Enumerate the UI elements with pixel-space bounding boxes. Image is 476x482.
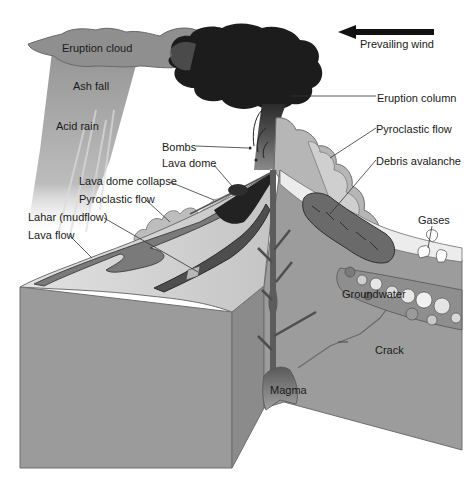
label-debris-avalanche: Debris avalanche (376, 155, 461, 167)
label-lahar: Lahar (mudflow) (28, 211, 107, 223)
label-acid-rain: Acid rain (56, 120, 99, 132)
eruption-column-head (169, 24, 323, 110)
volcano-diagram: Eruption cloud Ash fall Acid rain Prevai… (0, 0, 476, 482)
label-eruption-column: Eruption column (377, 92, 457, 104)
label-lava-dome-collapse: Lava dome collapse (79, 175, 177, 187)
label-lava-flow: Lava flow (28, 229, 74, 241)
label-gases: Gases (418, 214, 450, 226)
block-left-side (232, 286, 264, 468)
label-groundwater: Groundwater (342, 288, 406, 300)
block-left-front (20, 287, 232, 468)
wind-arrow-icon (338, 25, 434, 39)
label-ash-fall: Ash fall (73, 80, 109, 92)
label-pyroclastic-flow-left: Pyroclastic flow (79, 193, 155, 205)
label-pyroclastic-flow-right: Pyroclastic flow (376, 123, 452, 135)
label-magma: Magma (270, 384, 307, 396)
label-crack: Crack (375, 344, 404, 356)
lava-dome-shape (228, 184, 248, 196)
label-eruption-cloud: Eruption cloud (62, 42, 132, 54)
label-lava-dome: Lava dome (162, 157, 216, 169)
diagram-artwork (0, 0, 476, 482)
label-prevailing-wind: Prevailing wind (360, 38, 434, 50)
label-bombs: Bombs (162, 141, 196, 153)
